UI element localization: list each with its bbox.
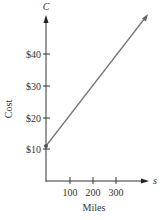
y-tick-label: $30 bbox=[26, 81, 41, 92]
x-axis-title: Miles bbox=[83, 202, 106, 213]
x-tick-label: 200 bbox=[86, 187, 101, 198]
y-tick-label: $20 bbox=[26, 113, 41, 124]
y-tick-label: $40 bbox=[26, 49, 41, 60]
y-axis-title: Cost bbox=[3, 100, 14, 119]
y-tick-label: $10 bbox=[26, 144, 41, 155]
x-tick-label: 300 bbox=[109, 187, 124, 198]
cost-line bbox=[46, 18, 145, 146]
cost-chart: $40 $30 $20 $10 100 200 300 Miles Cost C… bbox=[0, 0, 162, 220]
start-point bbox=[44, 144, 48, 148]
x-axis-arrow-icon bbox=[141, 179, 149, 184]
y-axis-variable: C bbox=[43, 1, 50, 12]
x-tick-label: 100 bbox=[63, 187, 78, 198]
y-axis-arrow-icon bbox=[44, 15, 49, 23]
x-axis-variable: s bbox=[153, 175, 157, 186]
